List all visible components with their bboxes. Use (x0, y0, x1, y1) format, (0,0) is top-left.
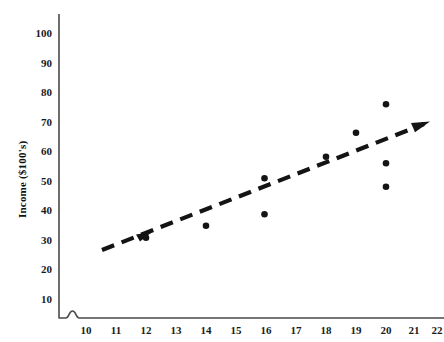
y-tick-label: 90 (26, 57, 52, 68)
x-tick-label: 12 (141, 325, 152, 336)
data-point (261, 175, 268, 182)
y-tick-label: 30 (26, 234, 52, 245)
trend-line-group (102, 122, 430, 250)
y-tick-label: 40 (26, 205, 52, 216)
plot-canvas (0, 0, 444, 342)
data-point (203, 222, 210, 229)
data-point (143, 234, 150, 241)
y-tick-label: 60 (26, 146, 52, 157)
data-points-group (143, 101, 390, 241)
y-tick-label: 100 (26, 28, 52, 39)
y-tick-label: 80 (26, 87, 52, 98)
x-tick-label: 16 (261, 325, 272, 336)
data-point (261, 211, 268, 218)
data-point (383, 160, 390, 167)
x-tick-label: 18 (321, 325, 332, 336)
x-tick-label: 11 (111, 325, 121, 336)
x-tick-label: 22 (432, 325, 443, 336)
trend-line (102, 124, 424, 250)
x-tick-label: 19 (351, 325, 362, 336)
y-tick-label: 20 (26, 264, 52, 275)
x-tick-label: 14 (201, 325, 212, 336)
y-tick-label: 10 (26, 293, 52, 304)
x-tick-label: 15 (231, 325, 242, 336)
data-point (323, 153, 330, 160)
y-tick-label: 70 (26, 116, 52, 127)
trend-arrow-end-icon (411, 122, 430, 133)
x-tick-label: 20 (381, 325, 392, 336)
x-tick-label: 10 (81, 325, 92, 336)
data-point (383, 101, 390, 108)
y-tick-label: 50 (26, 175, 52, 186)
x-tick-label: 21 (409, 325, 420, 336)
scatter-plot-figure: Income ($100's) 100 90 80 70 60 50 40 30… (0, 0, 444, 342)
data-point (353, 129, 360, 136)
x-tick-label: 17 (291, 325, 302, 336)
data-point (383, 183, 390, 190)
x-tick-label: 13 (171, 325, 182, 336)
axis-break-squiggle (59, 307, 444, 318)
